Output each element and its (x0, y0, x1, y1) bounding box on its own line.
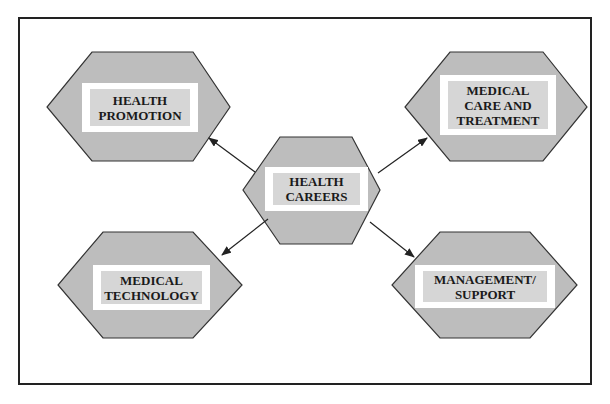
arrow-to-medical-care-and-treatment (378, 138, 427, 173)
node-label: HEALTH PROMOTION (98, 93, 181, 123)
node-label: MEDICAL CARE AND TREATMENT (457, 83, 540, 128)
arrow-to-management-support (370, 222, 414, 257)
node-medical-technology: MEDICAL TECHNOLOGY (93, 265, 210, 310)
node-health-promotion: HEALTH PROMOTION (82, 83, 198, 132)
label-inner: MANAGEMENT/ SUPPORT (423, 271, 547, 302)
label-inner: MEDICAL TECHNOLOGY (101, 271, 202, 304)
node-label: HEALTH CAREERS (285, 174, 347, 204)
node-management-support: MANAGEMENT/ SUPPORT (415, 265, 555, 308)
label-inner: HEALTH PROMOTION (90, 89, 190, 126)
arrow-to-health-promotion (209, 138, 255, 172)
node-health-careers: HEALTH CAREERS (265, 167, 368, 211)
label-inner: MEDICAL CARE AND TREATMENT (448, 81, 548, 129)
node-label: MEDICAL TECHNOLOGY (104, 273, 199, 303)
node-label: MANAGEMENT/ SUPPORT (434, 272, 536, 302)
node-medical-care-and-treatment: MEDICAL CARE AND TREATMENT (440, 75, 556, 135)
label-inner: HEALTH CAREERS (273, 173, 360, 205)
arrow-to-medical-technology (222, 219, 268, 255)
